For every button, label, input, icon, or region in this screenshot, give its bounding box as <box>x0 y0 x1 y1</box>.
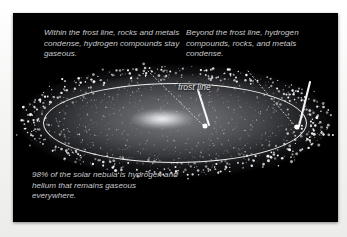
diagram-plate: Within the frost line, rocks and metals … <box>13 13 338 222</box>
outer-pointer-rod <box>299 82 310 126</box>
leader-line-left <box>148 71 204 126</box>
figure-container: Within the frost line, rocks and metals … <box>0 0 347 237</box>
leader-line-right <box>248 71 296 127</box>
annotation-right: Beyond the frost line, hydrogen compound… <box>186 28 326 60</box>
frost-line-label: frost line <box>178 82 211 92</box>
inner-pointer-ball <box>203 124 208 129</box>
annotation-left: Within the frost line, rocks and metals … <box>44 28 183 60</box>
inner-pointer-rod <box>198 90 209 125</box>
outer-pointer-ball <box>295 125 300 130</box>
annotation-bottom: 98% of the solar nebula is hydrogen and … <box>32 170 182 202</box>
